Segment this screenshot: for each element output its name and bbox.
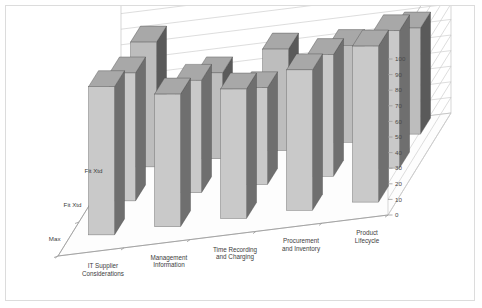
y-tick-label: 60 — [395, 118, 402, 125]
depth-axis-label: Max — [49, 235, 62, 242]
y-tick-label: 40 — [395, 149, 402, 156]
bar — [287, 54, 323, 210]
y-tick-label: 100 — [395, 55, 406, 62]
x-category-label: ManagementInformation — [151, 254, 188, 269]
y-tick-label: 30 — [395, 164, 402, 171]
depth-axis-label: Fit Xtd — [64, 201, 82, 208]
y-tick-label: 50 — [395, 133, 402, 140]
x-category-label: Procurementand Inventory — [282, 237, 321, 253]
x-category-label: Time Recordingand Charging — [213, 246, 258, 262]
bar — [155, 78, 191, 227]
depth-axis-label: Fit Xtd — [85, 167, 103, 174]
bar — [221, 73, 257, 218]
bar — [89, 71, 125, 235]
y-tick-label: 70 — [395, 102, 402, 109]
bar — [353, 30, 389, 202]
y-tick-label: 0 — [395, 211, 399, 218]
3d-bar-chart: 0102030405060708090100 MaxFit XtdFit Xtd… — [6, 6, 474, 300]
y-tick-label: 10 — [395, 196, 402, 203]
y-tick-label: 80 — [395, 86, 402, 93]
y-tick-label: 20 — [395, 180, 402, 187]
x-category-label: IT SupplierConsiderations — [82, 262, 124, 277]
x-category-label: ProductLifecycle — [355, 229, 380, 245]
chart-frame: 0102030405060708090100 MaxFit XtdFit Xtd… — [5, 5, 475, 301]
y-tick-label: 90 — [395, 71, 402, 78]
